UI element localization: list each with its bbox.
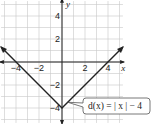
y-tick-label: 2 (55, 34, 60, 44)
y-tick-label: −2 (50, 80, 60, 90)
chart: xy −4−22442−2−4 d(x) = | x | − 4 (0, 0, 153, 124)
y-axis-label: y (65, 0, 70, 9)
x-tick-label: 2 (82, 63, 87, 73)
x-tick-label: −2 (34, 63, 44, 73)
x-tick-label: −4 (11, 63, 21, 73)
x-axis-label: x (120, 63, 125, 73)
y-tick-label: 4 (55, 11, 60, 21)
callout-label: d(x) = | x | − 4 (88, 101, 142, 112)
callout: d(x) = | x | − 4 (68, 98, 150, 114)
